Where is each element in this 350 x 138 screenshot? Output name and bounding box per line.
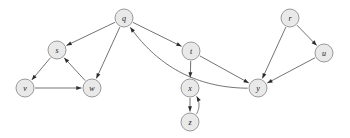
arrow-head-icon <box>188 106 192 111</box>
graph-node-z[interactable]: z <box>181 113 199 131</box>
arrow-head-icon <box>197 96 201 102</box>
edge-q-to-t <box>133 22 182 46</box>
node-label-x: x <box>187 84 192 93</box>
graph-node-t[interactable]: t <box>182 42 200 60</box>
graph-node-w[interactable]: w <box>83 79 101 97</box>
edge-line <box>267 58 315 83</box>
graph-node-q[interactable]: q <box>115 9 133 27</box>
node-label-s: s <box>55 46 58 55</box>
edge-z-to-x <box>196 96 200 114</box>
graph-canvas: qsvwtxzyru <box>0 0 350 138</box>
edge-line <box>96 27 119 78</box>
edges-layer <box>32 22 317 114</box>
arrow-head-icon <box>176 42 182 46</box>
arrow-head-icon <box>76 86 81 90</box>
graph-node-r[interactable]: r <box>281 9 299 27</box>
node-label-y: y <box>255 84 260 93</box>
edge-line <box>66 22 115 45</box>
node-label-u: u <box>322 49 326 58</box>
edge-w-to-s <box>64 58 85 81</box>
arrow-head-icon <box>243 79 249 83</box>
arrow-head-icon <box>66 41 72 45</box>
graph-node-v[interactable]: v <box>16 79 34 97</box>
edge-v-to-w <box>35 86 82 90</box>
edge-s-to-v <box>32 58 51 80</box>
edge-r-to-u <box>297 25 317 45</box>
graph-node-y[interactable]: y <box>249 79 267 97</box>
graph-node-s[interactable]: s <box>48 41 66 59</box>
directed-graph-diagram: qsvwtxzyru <box>0 0 350 138</box>
edge-r-to-y <box>262 27 285 78</box>
arrow-head-icon <box>130 27 135 32</box>
graph-node-x[interactable]: x <box>181 79 199 97</box>
edge-x-to-z <box>188 98 192 112</box>
edge-line <box>200 56 249 83</box>
edge-t-to-x <box>188 61 192 78</box>
arrow-head-icon <box>267 79 273 83</box>
node-label-q: q <box>122 14 126 23</box>
node-label-v: v <box>23 84 27 93</box>
edge-t-to-y <box>200 56 249 83</box>
graph-node-u[interactable]: u <box>315 44 333 62</box>
edge-q-to-w <box>96 27 119 78</box>
edge-q-to-s <box>66 22 115 45</box>
edge-u-to-y <box>267 58 315 83</box>
node-label-w: w <box>89 84 95 93</box>
edge-line <box>133 22 182 46</box>
arrow-head-icon <box>262 73 266 79</box>
edge-line <box>262 27 285 78</box>
arrow-head-icon <box>96 73 100 79</box>
